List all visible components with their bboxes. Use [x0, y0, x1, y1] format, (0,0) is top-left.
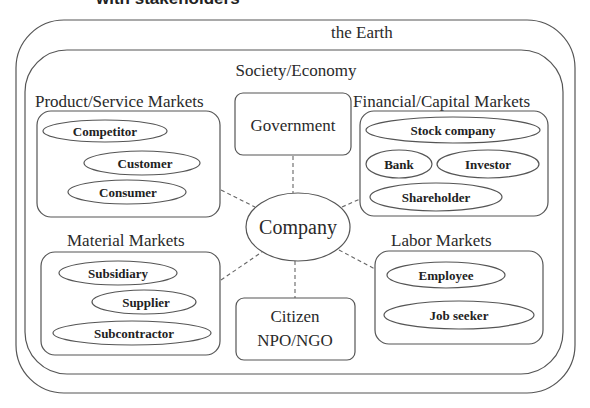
- government-node: Government: [235, 93, 351, 155]
- employee-label: Employee: [419, 268, 474, 283]
- shareholder-label: Shareholder: [402, 190, 471, 205]
- connector-financial: [342, 199, 360, 207]
- connector-material: [221, 252, 262, 280]
- citizen-label: Citizen: [270, 307, 320, 326]
- connector-labor: [339, 250, 375, 269]
- investor-label: Investor: [465, 157, 511, 172]
- customer-label: Customer: [118, 156, 173, 171]
- bank-label: Bank: [384, 157, 414, 172]
- stakeholder-diagram: with stakeholders the Earth Society/Econ…: [0, 0, 590, 408]
- material-markets: Material Markets Subsidiary Supplier Sub…: [41, 231, 220, 355]
- caption-partial: with stakeholders: [95, 0, 240, 8]
- society-label: Society/Economy: [236, 61, 357, 80]
- financial-markets-label: Financial/Capital Markets: [353, 92, 530, 111]
- material-markets-label: Material Markets: [67, 231, 185, 250]
- subcontractor-label: Subcontractor: [94, 326, 174, 341]
- government-label: Government: [251, 116, 336, 135]
- stock-company-label: Stock company: [411, 123, 496, 138]
- product-service-markets: Product/Service Markets Competitor Custo…: [35, 92, 220, 217]
- consumer-label: Consumer: [99, 185, 157, 200]
- product-markets-label: Product/Service Markets: [35, 92, 204, 111]
- competitor-label: Competitor: [73, 124, 137, 139]
- labor-markets: Labor Markets Employee Job seeker: [375, 231, 543, 344]
- earth-label: the Earth: [331, 23, 393, 42]
- job-seeker-label: Job seeker: [430, 308, 489, 323]
- supplier-label: Supplier: [122, 295, 170, 310]
- npo-ngo-label: NPO/NGO: [257, 331, 333, 350]
- company-label: Company: [259, 216, 337, 239]
- subsidiary-label: Subsidiary: [88, 266, 148, 281]
- connector-product: [221, 190, 255, 207]
- citizen-node: Citizen NPO/NGO: [236, 298, 355, 360]
- financial-capital-markets: Financial/Capital Markets Stock company …: [353, 92, 548, 216]
- labor-markets-label: Labor Markets: [391, 231, 492, 250]
- company-node: Company: [246, 193, 350, 261]
